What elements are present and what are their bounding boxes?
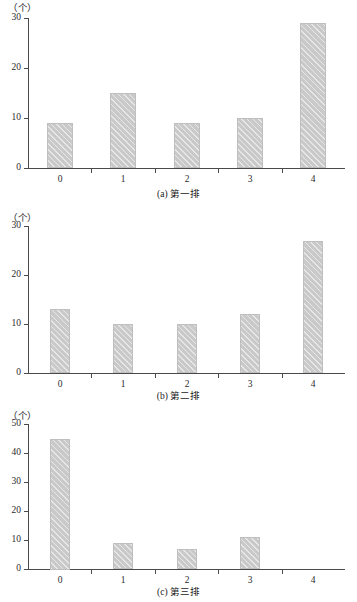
y-axis-tick: [24, 540, 28, 541]
x-axis-tick: [218, 169, 219, 173]
y-axis-line: [28, 424, 29, 570]
y-axis-tick-label: 30: [0, 476, 21, 486]
y-axis-tick: [24, 118, 28, 119]
y-axis-tick-label: 10: [0, 318, 21, 328]
y-axis-tick: [24, 373, 28, 374]
y-axis-tick: [24, 482, 28, 483]
y-axis-tick-label: 20: [0, 269, 21, 279]
bar: [303, 241, 323, 373]
bar: [240, 314, 260, 373]
bar: [240, 537, 260, 569]
chart-panel-b: （个） 010203001234 (b) 第二排: [0, 210, 357, 408]
x-axis-line: [28, 373, 345, 374]
y-axis-tick-label: 20: [0, 62, 21, 72]
y-axis-tick: [24, 68, 28, 69]
y-axis-tick: [24, 453, 28, 454]
x-axis-tick: [91, 169, 92, 173]
y-axis-tick-label: 0: [0, 162, 21, 172]
y-axis-tick-label: 10: [0, 112, 21, 122]
bar: [50, 439, 70, 570]
x-axis-tick: [282, 374, 283, 378]
y-axis-tick-label: 0: [0, 367, 21, 377]
x-axis-tick: [155, 169, 156, 173]
y-axis-tick: [24, 569, 28, 570]
bar: [50, 309, 70, 373]
bar: [177, 549, 197, 569]
y-axis-tick-label: 50: [0, 418, 21, 428]
chart-panel-c: （个） 0102030405001234 (c) 第三排: [0, 408, 357, 602]
bar: [47, 123, 73, 168]
x-axis-tick-label: 1: [103, 174, 143, 184]
y-axis-tick: [24, 275, 28, 276]
chart-caption-b: (b) 第二排: [0, 388, 357, 402]
y-axis-tick-label: 0: [0, 563, 21, 573]
y-axis-line: [28, 226, 29, 374]
y-axis-tick: [24, 168, 28, 169]
x-axis-tick: [282, 169, 283, 173]
bar: [113, 324, 133, 373]
chart-caption-a: (a) 第一排: [0, 186, 357, 200]
bar: [177, 324, 197, 373]
bar: [300, 23, 326, 168]
y-axis-tick: [24, 424, 28, 425]
x-axis-tick: [155, 570, 156, 574]
x-axis-tick: [218, 570, 219, 574]
y-axis-tick: [24, 511, 28, 512]
figure-three-bar-charts: （个） 010203001234 (a) 第一排 （个） 01020300123…: [0, 0, 357, 602]
y-axis-tick: [24, 324, 28, 325]
bar: [110, 93, 136, 168]
x-axis-line: [28, 569, 345, 570]
chart-caption-c: (c) 第三排: [0, 584, 357, 598]
y-axis-tick-label: 30: [0, 12, 21, 22]
bar: [113, 543, 133, 569]
y-axis-tick-label: 40: [0, 447, 21, 457]
x-axis-tick-label: 2: [167, 174, 207, 184]
y-axis-tick-label: 10: [0, 534, 21, 544]
x-axis-tick: [218, 374, 219, 378]
x-axis-tick-label: 0: [40, 174, 80, 184]
y-axis-tick-label: 20: [0, 505, 21, 515]
x-axis-tick: [91, 570, 92, 574]
y-axis-tick: [24, 226, 28, 227]
y-axis-tick: [24, 18, 28, 19]
x-axis-tick: [91, 374, 92, 378]
chart-panel-a: （个） 010203001234 (a) 第一排: [0, 0, 357, 210]
x-axis-tick-label: 3: [230, 174, 270, 184]
x-axis-tick-label: 4: [293, 174, 333, 184]
x-axis-tick: [155, 374, 156, 378]
bar: [237, 118, 263, 168]
y-axis-tick-label: 30: [0, 220, 21, 230]
y-axis-line: [28, 18, 29, 169]
bar: [174, 123, 200, 168]
x-axis-line: [28, 168, 345, 169]
x-axis-tick: [282, 570, 283, 574]
